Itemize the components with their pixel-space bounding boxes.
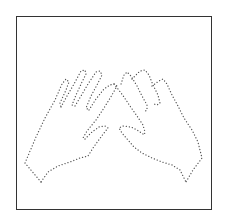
left-middle-finger [83,84,117,139]
hands-dotted-outline [0,0,225,219]
left-thumb [41,126,108,182]
left-little-finger [61,70,86,107]
right-hand [114,70,202,182]
left-hand-outer-edge [25,79,69,182]
right-middle-finger [121,72,147,112]
left-hand [25,70,117,182]
right-ring-finger [132,70,160,105]
figure-canvas [0,0,225,219]
right-little-finger-outer-edge [152,79,202,182]
left-ring-finger [75,71,102,110]
right-thumb [119,126,186,182]
